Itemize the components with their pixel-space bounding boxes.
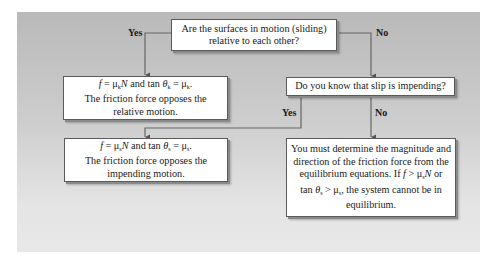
node-text: Are the surfaces in motion (sliding) (181, 23, 326, 36)
node-text: relative to each other? (209, 35, 299, 48)
edge-label-no-1: No (376, 27, 388, 38)
node-text-condition-2: tan θs > μs, the system cannot be in (300, 184, 442, 200)
node-determine-equilibrium: You must determine the magnitude and dir… (286, 138, 456, 217)
edge-label-no-2: No (375, 107, 387, 118)
node-text: The friction force opposes the (84, 93, 206, 106)
node-text: relative motion. (113, 106, 178, 119)
edge-label-yes-1: Yes (128, 27, 142, 38)
edge-label-yes-2: Yes (282, 107, 296, 118)
node-text: You must determine the magnitude and (291, 143, 451, 156)
node-text: Do you know that slip is impending? (295, 80, 446, 93)
kinetic-equation: f = μkN and tan θk = μk. (99, 78, 193, 94)
node-static-friction: f = μsN and tan θs = μs. The friction fo… (64, 138, 228, 182)
node-text: equilibrium. (346, 199, 396, 212)
node-text: direction of the friction force from the (293, 156, 449, 169)
node-text: impending motion. (107, 168, 185, 181)
static-equation: f = μsN and tan θs = μs. (100, 140, 192, 156)
node-kinetic-friction: f = μkN and tan θk = μk. The friction fo… (63, 76, 228, 120)
node-text: The friction force opposes the (85, 155, 207, 168)
node-question-sliding: Are the surfaces in motion (sliding) rel… (171, 19, 337, 51)
node-question-impending: Do you know that slip is impending? (286, 77, 455, 96)
node-text-condition-1: equilibrium equations. If f > μsN or (300, 168, 443, 184)
